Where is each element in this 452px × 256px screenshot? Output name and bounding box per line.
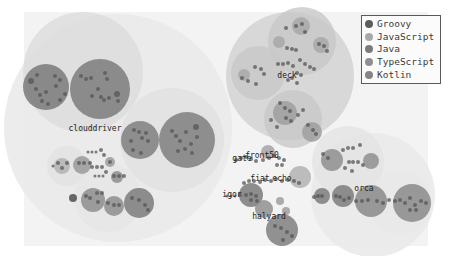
file-circle[interactable] [381,201,385,205]
file-circle[interactable] [99,95,103,99]
file-circle[interactable] [174,134,178,138]
package-circle[interactable] [363,153,379,169]
file-circle[interactable] [100,191,104,195]
file-circle[interactable] [290,234,294,238]
file-circle[interactable] [281,238,285,242]
file-circle[interactable] [356,160,360,164]
file-circle[interactable] [306,123,310,127]
file-circle[interactable] [317,42,321,46]
file-circle[interactable] [137,130,141,134]
file-circle[interactable] [303,62,307,66]
package-circle[interactable] [124,188,154,218]
file-circle[interactable] [312,195,316,199]
file-circle[interactable] [393,199,397,203]
file-circle[interactable] [90,165,94,169]
file-circle[interactable] [100,165,104,169]
file-circle[interactable] [347,196,351,200]
file-circle[interactable] [102,175,105,178]
file-circle[interactable] [346,146,350,150]
file-circle[interactable] [308,65,312,69]
file-circle[interactable] [351,146,355,150]
file-circle[interactable] [285,230,289,234]
file-circle[interactable] [84,194,88,198]
file-circle[interactable] [108,160,112,164]
file-circle[interactable] [87,151,90,154]
file-circle[interactable] [132,128,136,132]
file-circle[interactable] [296,113,300,117]
file-circle[interactable] [106,201,110,205]
file-circle[interactable] [387,198,391,202]
file-circle[interactable] [259,67,263,71]
file-circle[interactable] [84,77,88,81]
file-circle[interactable] [375,199,379,203]
file-circle[interactable] [361,163,365,167]
file-circle[interactable] [63,92,67,96]
file-circle[interactable] [114,91,120,97]
file-circle[interactable] [408,196,412,200]
file-circle[interactable] [102,153,106,157]
file-circle[interactable] [104,170,108,174]
file-circle[interactable] [105,77,109,81]
file-circle[interactable] [28,78,34,84]
file-circle[interactable] [295,81,299,85]
file-circle[interactable] [189,142,193,146]
file-circle[interactable] [297,181,301,185]
file-circle[interactable] [195,135,199,139]
file-circle[interactable] [65,161,69,165]
file-circle[interactable] [117,174,121,178]
file-circle[interactable] [38,93,42,97]
file-circle[interactable] [311,128,315,132]
file-circle[interactable] [240,76,244,80]
package-circle[interactable] [159,112,215,168]
file-circle[interactable] [262,72,266,76]
file-circle[interactable] [298,58,302,62]
file-circle[interactable] [299,73,303,77]
file-circle[interactable] [95,151,98,154]
file-circle[interactable] [325,49,329,53]
file-circle[interactable] [414,208,418,212]
file-circle[interactable] [249,192,253,196]
file-circle[interactable] [398,198,402,202]
file-circle[interactable] [254,82,258,86]
package-circle[interactable] [273,36,285,48]
file-circle[interactable] [35,73,39,77]
file-circle[interactable] [284,116,288,120]
file-circle[interactable] [54,84,58,88]
file-circle[interactable] [112,174,116,178]
file-circle[interactable] [95,165,99,169]
file-circle[interactable] [34,87,38,91]
file-circle[interactable] [284,26,288,30]
file-circle[interactable] [354,199,358,203]
file-circle[interactable] [94,175,97,178]
file-circle[interactable] [280,163,284,167]
file-circle[interactable] [82,161,86,165]
file-circle[interactable] [408,208,412,212]
package-circle[interactable] [302,122,322,142]
file-circle[interactable] [249,198,253,202]
file-circle[interactable] [96,87,100,91]
file-circle[interactable] [90,94,94,98]
file-circle[interactable] [88,161,92,165]
file-circle[interactable] [89,76,93,80]
file-circle[interactable] [242,181,246,185]
file-circle[interactable] [88,196,92,200]
file-circle[interactable] [303,30,307,34]
file-circle[interactable] [95,191,99,195]
file-circle[interactable] [103,71,107,75]
file-circle[interactable] [40,99,44,103]
file-circle[interactable] [46,102,50,106]
file-circle[interactable] [326,156,330,160]
file-circle[interactable] [291,64,295,68]
package-circle[interactable] [276,197,284,205]
file-circle[interactable] [253,65,257,69]
file-circle[interactable] [278,101,282,105]
file-circle[interactable] [146,139,150,143]
file-circle[interactable] [273,224,277,228]
file-circle[interactable] [91,151,94,154]
file-circle[interactable] [334,194,338,198]
file-circle[interactable] [338,195,342,199]
file-circle[interactable] [190,151,194,155]
file-circle[interactable] [96,200,100,204]
file-circle[interactable] [312,67,316,71]
file-circle[interactable] [413,203,417,207]
